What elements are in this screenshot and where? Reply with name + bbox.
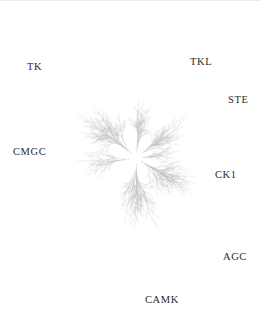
group-label-cmgc: CMGC (13, 147, 46, 158)
group-label-layer: TK TKL STE CK1 AGC CAMK CMGC (0, 0, 261, 330)
kinome-tree-figure: TK TKL STE CK1 AGC CAMK CMGC (0, 0, 261, 330)
group-label-agc: AGC (223, 252, 247, 263)
group-label-tk: TK (27, 62, 42, 73)
group-label-camk: CAMK (145, 295, 179, 306)
group-label-ste: STE (228, 95, 248, 106)
group-label-ck1: CK1 (215, 170, 237, 181)
group-label-tkl: TKL (190, 57, 212, 68)
